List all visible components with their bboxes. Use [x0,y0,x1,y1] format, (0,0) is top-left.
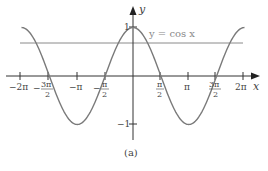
y-tick-1-label: 1 [124,22,130,32]
x-tick-3pi2-den: 2 [213,90,218,99]
figure-caption: (a) [124,147,138,158]
x-tick-neg-3pi2-minus: − [33,83,41,93]
x-tick-neg-2pi-label: −2π [9,82,28,92]
x-tick-neg-pi-label: −π [69,82,83,92]
x-tick-pi2-num: π [157,80,162,89]
x-axis-label: x [253,80,260,93]
x-tick-3pi2-num: 3π [209,80,219,89]
equation-label: y = cos x [148,28,195,39]
y-axis-label: y [138,3,146,16]
y-axis-arrow-icon [130,6,137,15]
x-tick-pi2-den: 2 [157,90,162,99]
x-tick-pi-label: π [184,82,190,92]
x-tick-neg-pi2-num: π [102,80,107,89]
x-tick-neg-3pi2-num: 3π [41,80,51,89]
y-tick-neg1-label: −1 [117,119,130,129]
x-tick-neg-pi2-minus: − [93,83,101,93]
x-tick-neg-pi2-den: 2 [102,90,107,99]
cosine-chart: y x y = cos x 1 −1 −2π − 3π 2 −π − π 2 π… [0,0,268,171]
x-axis-arrow-icon [251,73,260,80]
x-tick-2pi-label: 2π [235,82,247,92]
x-tick-neg-3pi2-den: 2 [45,90,50,99]
